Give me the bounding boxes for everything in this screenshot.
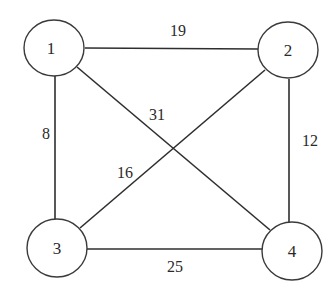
- edge-weight-1-4: 31: [149, 106, 165, 123]
- node-1-label: 1: [47, 39, 56, 58]
- weighted-graph-diagram: 19 31 8 12 16 25 1 2 3 4: [0, 0, 336, 296]
- edge-weight-3-4: 25: [167, 258, 183, 275]
- edge-weight-1-3: 8: [42, 125, 50, 142]
- node-1: 1: [24, 20, 84, 76]
- edge-1-2: [85, 48, 259, 49]
- node-4: 4: [262, 222, 322, 280]
- node-3: 3: [27, 219, 87, 277]
- node-3-label: 3: [53, 239, 62, 258]
- node-2: 2: [258, 22, 318, 78]
- node-2-label: 2: [284, 41, 293, 60]
- edge-weight-1-2: 19: [170, 22, 186, 39]
- edge-weight-2-3: 16: [117, 164, 133, 181]
- edge-weight-2-4: 12: [302, 132, 318, 149]
- node-4-label: 4: [288, 242, 297, 261]
